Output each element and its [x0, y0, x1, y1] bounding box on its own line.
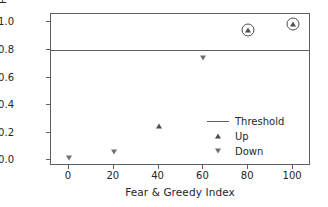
threshold-line-icon: [205, 114, 235, 129]
chart-legend: ThresholdUpDown: [205, 114, 305, 159]
legend-label: Down: [235, 146, 263, 157]
x-tick-mark: [292, 165, 293, 169]
x-tick-mark: [247, 165, 248, 169]
chart-figure: Probability of Going up 0.00.20.40.60.81…: [0, 0, 328, 207]
legend-item-up[interactable]: Up: [205, 129, 305, 144]
data-point-down: [66, 155, 72, 160]
x-tick-label: 40: [138, 170, 178, 181]
legend-label: Up: [235, 131, 249, 142]
y-tick-label: 0.8: [0, 43, 14, 54]
x-tick-label: 0: [48, 170, 88, 181]
legend-item-threshold[interactable]: Threshold: [205, 114, 305, 129]
line-swatch: [207, 121, 229, 122]
x-tick-label: 80: [227, 170, 267, 181]
data-point-down: [200, 56, 206, 61]
x-tick-label: 100: [272, 170, 312, 181]
x-tick-mark: [113, 165, 114, 169]
legend-item-down[interactable]: Down: [205, 144, 305, 159]
y-tick-label: 0.2: [0, 126, 14, 137]
legend-label: Threshold: [235, 116, 284, 127]
y-tick-label: 0.0: [0, 154, 14, 165]
y-tick-label: 0.6: [0, 71, 14, 82]
triangle-down-icon: [205, 144, 235, 159]
x-axis-label: Fear & Greedy Index: [50, 186, 310, 198]
data-point-up: [245, 27, 251, 32]
data-point-up: [156, 123, 162, 128]
threshold-line: [51, 50, 309, 51]
x-tick-mark: [158, 165, 159, 169]
y-axis-label: Probability of Going up: [0, 0, 8, 4]
y-tick-label: 0.4: [0, 99, 14, 110]
x-tick-mark: [202, 165, 203, 169]
triangle-up-icon: [205, 129, 235, 144]
y-tick-label: 1.0: [0, 16, 14, 27]
x-tick-mark: [68, 165, 69, 169]
triangle-down-swatch: [215, 149, 221, 154]
x-tick-label: 60: [182, 170, 222, 181]
data-point-down: [111, 150, 117, 155]
x-tick-label: 20: [93, 170, 133, 181]
data-point-up: [290, 22, 296, 27]
triangle-up-swatch: [215, 134, 221, 139]
